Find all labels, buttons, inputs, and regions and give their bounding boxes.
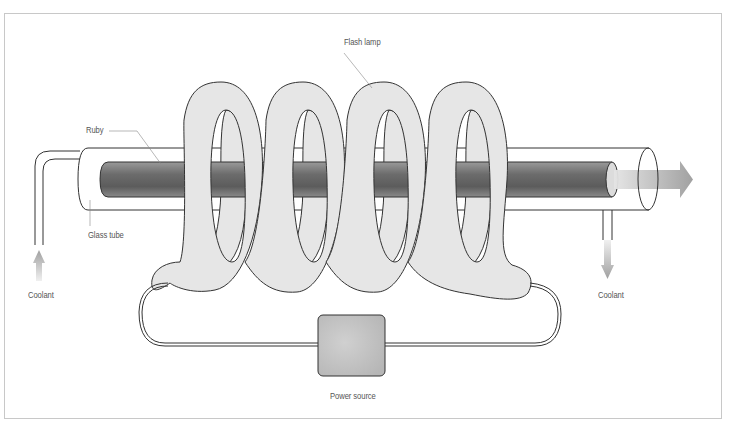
label-coolant-in: Coolant xyxy=(28,290,54,300)
coolant-out-arrow-icon xyxy=(601,240,614,279)
ruby-laser-diagram xyxy=(0,0,729,427)
label-flash-lamp: Flash lamp xyxy=(344,37,381,47)
label-ruby: Ruby xyxy=(86,125,104,135)
label-power-source: Power source xyxy=(330,391,376,401)
coolant-in-arrow-icon xyxy=(33,250,45,281)
coolant-inlet-pipe xyxy=(35,151,80,245)
power-source-box xyxy=(318,315,385,376)
label-coolant-out: Coolant xyxy=(598,290,624,300)
coolant-outlet-pipe xyxy=(603,210,612,240)
label-glass-tube: Glass tube xyxy=(88,230,124,240)
